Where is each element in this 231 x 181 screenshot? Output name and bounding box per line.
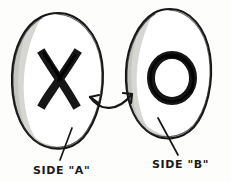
sketch-drawing: SIDE "A" SIDE "B" [0, 0, 231, 181]
o-mark [151, 55, 194, 102]
arrowhead-right [123, 93, 132, 94]
egg-shape-side-b[interactable] [120, 9, 218, 150]
egg-shape-side-a[interactable] [6, 13, 110, 160]
label-side-b: SIDE "B" [152, 158, 209, 171]
sketch-canvas: SIDE "A" SIDE "B" [0, 0, 231, 181]
label-side-a: SIDE "A" [33, 164, 90, 177]
